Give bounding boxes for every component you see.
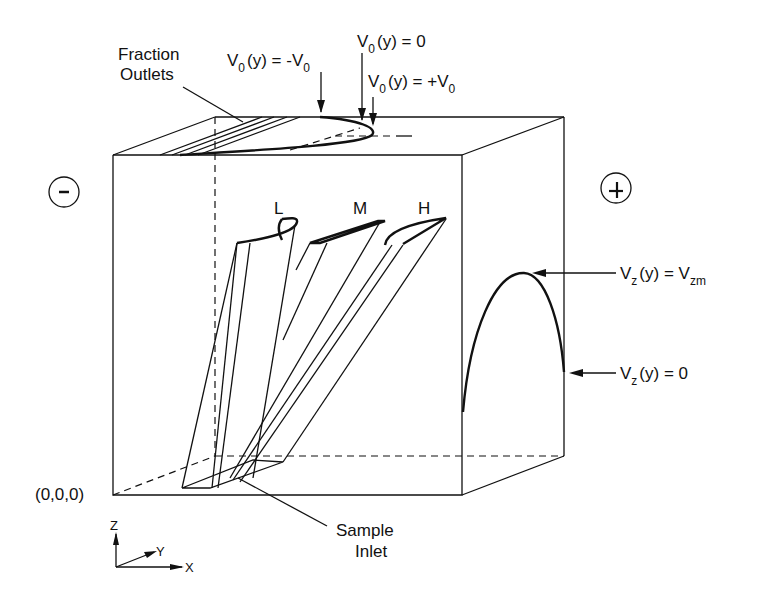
label-fraction-outlets-1: Fraction (118, 45, 179, 64)
label-fraction-outlets-2: Outlets (120, 65, 174, 84)
electrode-negative (49, 177, 79, 207)
band-L-top (237, 218, 297, 243)
label-v0-minus: V0(y) = -V0 (227, 51, 310, 75)
axes-triad (113, 532, 184, 570)
label-axis-x: X (185, 560, 194, 575)
label-axis-z: Z (110, 518, 118, 533)
label-band-M: M (353, 199, 367, 218)
label-v0-zero: V0(y) = 0 (357, 32, 426, 56)
fraction-outlets-leader (183, 87, 243, 122)
svg-text:V0(y) = -V0: V0(y) = -V0 (227, 51, 310, 75)
label-band-H: H (418, 199, 430, 218)
label-origin: (0,0,0) (35, 485, 84, 504)
chamber-cube (113, 117, 564, 495)
svg-text:Vz(y) = 0: Vz(y) = 0 (620, 364, 688, 388)
label-sample-inlet-2: Inlet (355, 542, 387, 561)
electrophoresis-diagram: Fraction Outlets V0(y) = -V0 V0(y) = 0 V… (0, 0, 779, 606)
cube-bottom-right-edge (462, 456, 564, 495)
label-vz-zero: Vz(y) = 0 (620, 364, 688, 388)
svg-text:V0(y) = 0: V0(y) = 0 (357, 32, 426, 56)
label-axis-y: Y (156, 544, 165, 559)
separation-bands (182, 218, 446, 488)
cube-top-right-edge (462, 117, 564, 155)
electrode-positive (601, 173, 631, 203)
cube-hidden-depth-edge (113, 456, 215, 495)
sample-inlet-leader (238, 478, 327, 526)
svg-text:Vz(y) = Vzm: Vz(y) = Vzm (620, 264, 706, 288)
label-v0-plus: V0(y) = +V0 (368, 72, 456, 96)
label-vz-max: Vz(y) = Vzm (620, 264, 706, 288)
svg-text:V0(y) = +V0: V0(y) = +V0 (368, 72, 456, 96)
cube-front-face (113, 155, 462, 495)
label-sample-inlet-1: Sample (336, 521, 394, 540)
vz-velocity-profile (463, 269, 616, 412)
label-band-L: L (274, 199, 283, 218)
